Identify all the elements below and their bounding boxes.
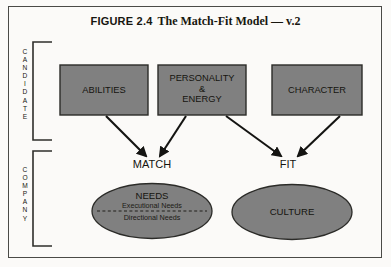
group-letter: M — [18, 182, 32, 190]
diagram-canvas — [0, 0, 391, 267]
group-letter: E — [18, 113, 32, 121]
bracket-company — [33, 151, 52, 246]
ellipse-title-culture: CULTURE — [232, 206, 352, 217]
box-abilities[interactable] — [60, 65, 148, 115]
node-caption-fit: FIT — [252, 158, 324, 170]
box-character[interactable] — [272, 65, 362, 115]
figure-container: FIGURE 2.4The Match-Fit Model — v.2 C A … — [0, 0, 391, 267]
arrow-personality-to-match — [160, 116, 186, 156]
group-letter: D — [18, 88, 32, 96]
arrow-character-to-fit — [298, 116, 340, 156]
group-letter: C — [18, 48, 32, 56]
group-letter: A — [18, 56, 32, 64]
group-letter: D — [18, 72, 32, 80]
bracket-candidate — [33, 42, 52, 140]
ellipse-sub-executional-needs: Executional Needs — [92, 201, 212, 210]
group-label-company: C O M P A N Y — [18, 166, 32, 223]
group-label-candidate: C A N D I D A T E — [18, 48, 32, 121]
box-personality-energy[interactable] — [158, 65, 246, 115]
group-letter: A — [18, 198, 32, 206]
group-letter: A — [18, 97, 32, 105]
node-caption-match: MATCH — [112, 158, 192, 170]
group-letter: P — [18, 190, 32, 198]
group-letter: N — [18, 64, 32, 72]
group-letter: N — [18, 206, 32, 214]
arrow-abilities-to-match — [106, 116, 146, 156]
group-letter: I — [18, 80, 32, 88]
arrow-personality-to-fit — [226, 116, 281, 156]
ellipse-sub-directional-needs: Directional Needs — [92, 213, 212, 222]
group-letter: Y — [18, 215, 32, 223]
group-letter: C — [18, 166, 32, 174]
group-letter: O — [18, 174, 32, 182]
ellipse-title-needs: NEEDS — [92, 190, 212, 201]
group-letter: T — [18, 105, 32, 113]
